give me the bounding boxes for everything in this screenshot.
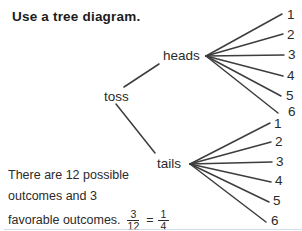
heads-outcome-5: 5 [286,88,300,103]
tails-outcome-line-5 [190,164,269,202]
heads-outcome-line-6 [206,56,278,113]
tails-outcome-1: 1 [274,116,288,131]
tails-outcome-5: 5 [273,193,287,208]
explanation-line-3-text: favorable outcomes. [8,210,121,231]
heads-outcome-line-5 [206,56,281,96]
heads-outcome-1: 1 [287,7,301,22]
fraction-3-12-numerator: 3 [127,209,139,221]
heads-outcome-line-3 [206,55,284,56]
heads-outcome-3: 3 [288,47,302,62]
explanation-line-1: There are 12 possible [8,165,169,186]
explanation-line-2: outcomes and 3 [8,186,169,207]
tails-outcome-line-3 [190,162,272,164]
tree-root-label: toss [104,89,129,104]
tails-outcome-3: 3 [276,154,290,169]
heads-outcome-line-2 [206,34,283,56]
explanation-text: There are 12 possible outcomes and 3 fav… [8,165,169,231]
tree-branch-heads-label: heads [163,48,200,63]
page-edge-line [4,229,302,231]
equals-sign: = [146,210,153,231]
tails-outcome-6: 6 [271,213,285,228]
fraction-1-4-numerator: 1 [158,209,170,221]
heads-outcome-6: 6 [288,104,302,119]
explanation-line-3: favorable outcomes. 3 12 = 1 4 [8,207,169,231]
branch-line-toss-tails [116,104,155,153]
branch-line-toss-heads [124,64,159,87]
tails-outcome-line-2 [190,142,271,164]
tails-outcome-2: 2 [275,134,289,149]
heads-outcome-line-1 [206,14,282,56]
tails-outcome-line-1 [190,123,270,164]
heads-outcome-2: 2 [287,27,301,42]
heads-outcome-4: 4 [287,68,301,83]
tails-outcome-4: 4 [275,173,289,188]
worksheet-page: Use a tree diagram. toss heads tails 1 2… [0,0,302,231]
